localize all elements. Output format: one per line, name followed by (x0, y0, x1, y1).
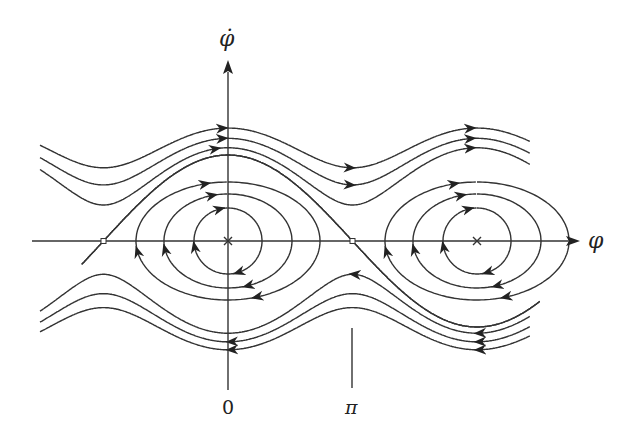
rotation-upper (40, 138, 530, 185)
x-axis-label: φ (588, 230, 603, 252)
y-axis-label: φ̇ (219, 28, 234, 50)
saddle-point-icon (101, 239, 106, 244)
trajectories (40, 128, 569, 350)
phidot-axis-arrow-icon (223, 60, 233, 74)
rotation-upper (40, 128, 530, 168)
phase-portrait (0, 0, 623, 432)
tick-label-zero: 0 (222, 398, 234, 417)
saddle-point-icon (350, 239, 355, 244)
tick-label-pi: π (345, 398, 358, 417)
axes (32, 60, 580, 390)
phi-axis-arrow-icon (566, 236, 580, 246)
